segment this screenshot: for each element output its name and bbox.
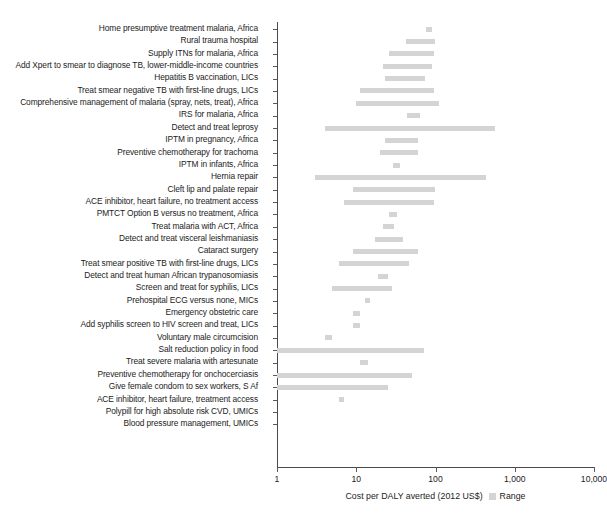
y-axis-tick xyxy=(273,227,277,228)
range-bar xyxy=(325,126,496,131)
y-axis-tick xyxy=(273,165,277,166)
y-axis-tick xyxy=(273,412,277,413)
category-label: Preventive chemotherapy for trachoma xyxy=(0,148,262,157)
category-label: Screen and treat for syphilis, LICs xyxy=(0,283,262,292)
range-bar xyxy=(325,335,333,340)
x-axis-tick xyxy=(277,467,278,472)
y-axis-tick xyxy=(273,177,277,178)
y-axis-tick xyxy=(273,54,277,55)
category-label: Add syphilis screen to HIV screen and tr… xyxy=(0,320,262,329)
category-label: Detect and treat visceral leishmaniasis xyxy=(0,234,262,243)
range-bar xyxy=(383,224,394,229)
range-bar xyxy=(353,323,360,328)
y-axis-tick xyxy=(273,338,277,339)
y-axis-tick xyxy=(273,400,277,401)
category-label: Treat smear positive TB with first-line … xyxy=(0,259,262,268)
y-axis-tick xyxy=(273,202,277,203)
y-axis-tick xyxy=(273,103,277,104)
category-label: PMTCT Option B versus no treatment, Afri… xyxy=(0,209,262,218)
category-label: Hernia repair xyxy=(0,172,262,181)
legend-label-range: Range xyxy=(500,491,526,501)
y-axis-tick xyxy=(273,264,277,265)
y-axis-tick xyxy=(273,276,277,277)
range-bar xyxy=(378,274,387,279)
range-bar xyxy=(365,298,370,303)
range-bar xyxy=(360,88,434,93)
range-bar xyxy=(277,385,388,390)
category-label: Blood pressure management, UMICs xyxy=(0,419,262,428)
category-label: Rural trauma hospital xyxy=(0,36,262,45)
range-bar xyxy=(389,51,434,56)
plot-area xyxy=(277,22,594,464)
category-label: IRS for malaria, Africa xyxy=(0,110,262,119)
category-label-column: Home presumptive treatment malaria, Afri… xyxy=(0,0,262,470)
range-bar xyxy=(277,373,412,378)
range-bar xyxy=(360,360,368,365)
category-label: Polypill for high absolute risk CVD, UMI… xyxy=(0,407,262,416)
range-bar xyxy=(375,237,404,242)
category-label: ACE inhibitor, heart failure, no treatme… xyxy=(0,197,262,206)
x-axis-tick xyxy=(594,467,595,472)
range-bar xyxy=(353,249,418,254)
x-axis-label: Cost per DALY averted (2012 US$) xyxy=(345,491,482,501)
x-axis-tick xyxy=(436,467,437,472)
y-axis-tick xyxy=(273,363,277,364)
range-bar xyxy=(380,150,418,155)
x-axis-tick-label: 1,000 xyxy=(504,474,526,484)
y-axis-tick xyxy=(273,326,277,327)
category-label: Give female condom to sex workers, S Af xyxy=(0,382,262,391)
y-axis-tick xyxy=(273,29,277,30)
y-axis-tick xyxy=(273,252,277,253)
range-bar xyxy=(389,212,397,217)
category-label: Supply ITNs for malaria, Africa xyxy=(0,49,262,58)
range-bar xyxy=(385,76,425,81)
y-axis-tick xyxy=(273,301,277,302)
range-bar xyxy=(406,39,434,44)
category-label: Add Xpert to smear to diagnose TB, lower… xyxy=(0,61,262,70)
y-axis-tick xyxy=(273,424,277,425)
y-axis-tick xyxy=(273,140,277,141)
range-bar xyxy=(339,397,344,402)
x-axis-tick-label: 10,000 xyxy=(581,474,607,484)
range-bar xyxy=(339,261,409,266)
y-axis-tick xyxy=(273,91,277,92)
category-label: IPTM in pregnancy, Africa xyxy=(0,135,262,144)
category-label: Voluntary male circumcision xyxy=(0,333,262,342)
range-bar xyxy=(383,64,432,69)
category-label: Treat malaria with ACT, Africa xyxy=(0,222,262,231)
y-axis-tick xyxy=(273,313,277,314)
y-axis-tick xyxy=(273,289,277,290)
category-label: Detect and treat human African trypanoso… xyxy=(0,271,262,280)
category-label: Hepatitis B vaccination, LICs xyxy=(0,73,262,82)
range-bar xyxy=(393,163,400,168)
range-bar xyxy=(385,138,418,143)
category-label: Emergency obstetric care xyxy=(0,308,262,317)
y-axis-tick xyxy=(273,239,277,240)
category-label: Detect and treat leprosy xyxy=(0,123,262,132)
category-label: Salt reduction policy in food xyxy=(0,345,262,354)
chart-footer: Cost per DALY averted (2012 US$) Range xyxy=(277,487,594,505)
y-axis-tick xyxy=(273,153,277,154)
range-bar xyxy=(407,113,419,118)
y-axis-tick xyxy=(273,116,277,117)
category-label: Treat smear negative TB with first-line … xyxy=(0,86,262,95)
y-axis-tick xyxy=(273,190,277,191)
y-axis-tick xyxy=(273,66,277,67)
y-axis-tick xyxy=(273,128,277,129)
range-bar xyxy=(356,101,439,106)
x-axis-tick xyxy=(515,467,516,472)
y-axis-tick xyxy=(273,79,277,80)
y-axis-tick xyxy=(273,214,277,215)
category-label: Home presumptive treatment malaria, Afri… xyxy=(0,24,262,33)
category-label: Preventive chemotherapy for onchocercias… xyxy=(0,370,262,379)
x-axis-tick-label: 100 xyxy=(428,474,442,484)
x-axis-tick-label: 1 xyxy=(275,474,280,484)
legend-swatch-range xyxy=(489,493,496,500)
range-bar xyxy=(353,311,360,316)
range-bar xyxy=(277,348,424,353)
category-label: Treat severe malaria with artesunate xyxy=(0,357,262,366)
range-bar xyxy=(353,187,436,192)
range-bar xyxy=(426,27,432,32)
category-label: Cataract surgery xyxy=(0,246,262,255)
